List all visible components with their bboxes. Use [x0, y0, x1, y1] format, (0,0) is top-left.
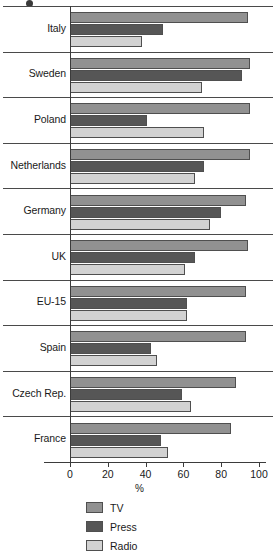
bar-radio-germany: [70, 219, 210, 230]
bar-group: EU-15: [0, 280, 279, 326]
bar-radio-eu-15: [70, 310, 187, 321]
bar-press-netherlands: [70, 161, 204, 172]
bar-radio-sweden: [70, 82, 202, 93]
bar-group: Spain: [0, 325, 279, 371]
bar-radio-france: [70, 447, 168, 458]
bar-radio-czech-rep: [70, 401, 191, 412]
bar-press-uk: [70, 252, 195, 263]
category-label: France: [0, 432, 66, 444]
x-tick: [108, 462, 109, 467]
bar-tv-czech-rep: [70, 377, 236, 388]
x-axis-line: [44, 462, 266, 463]
bar-press-poland: [70, 115, 147, 126]
bar-group: UK: [0, 234, 279, 280]
bar-press-sweden: [70, 70, 242, 81]
legend-item-radio: Radio: [86, 537, 137, 554]
bar-press-france: [70, 435, 161, 446]
x-tick-label: 40: [126, 468, 166, 480]
x-tick-label: 60: [163, 468, 203, 480]
category-label: Germany: [0, 204, 66, 216]
bar-tv-uk: [70, 240, 248, 251]
bar-press-italy: [70, 24, 163, 35]
x-tick-label: 0: [50, 468, 90, 480]
x-tick: [183, 462, 184, 467]
bar-tv-spain: [70, 331, 246, 342]
bar-tv-sweden: [70, 58, 250, 69]
legend-item-tv: TV: [86, 499, 137, 516]
bar-tv-netherlands: [70, 149, 250, 160]
legend: TV Press Radio: [86, 499, 137, 555]
category-label: Poland: [0, 113, 66, 125]
bar-group: Sweden: [0, 52, 279, 98]
legend-swatch-tv-icon: [86, 502, 103, 513]
bar-press-spain: [70, 343, 151, 354]
legend-swatch-radio-icon: [86, 540, 103, 551]
bar-radio-uk: [70, 264, 185, 275]
category-label: Sweden: [0, 67, 66, 79]
category-label: Czech Rep.: [0, 387, 66, 399]
y-axis-line: [70, 6, 71, 462]
bar-group: Netherlands: [0, 143, 279, 189]
category-label: Spain: [0, 341, 66, 353]
category-label: UK: [0, 250, 66, 262]
bar-tv-italy: [70, 12, 248, 23]
bar-radio-netherlands: [70, 173, 195, 184]
x-tick: [221, 462, 222, 467]
x-axis-title: %: [0, 483, 279, 494]
legend-label-press: Press: [110, 521, 137, 533]
bar-group: Germany: [0, 188, 279, 234]
bar-group: Czech Rep.: [0, 371, 279, 417]
bar-press-eu-15: [70, 298, 187, 309]
category-label: Netherlands: [0, 159, 66, 171]
bar-press-germany: [70, 207, 221, 218]
x-tick: [259, 462, 260, 467]
legend-label-radio: Radio: [110, 540, 137, 552]
category-label: EU-15: [0, 295, 66, 307]
legend-item-press: Press: [86, 518, 137, 535]
plot-area: ItalySwedenPolandNetherlandsGermanyUKEU-…: [0, 0, 279, 462]
bar-group: France: [0, 416, 279, 462]
bar-group: Poland: [0, 97, 279, 143]
bar-radio-poland: [70, 127, 204, 138]
bar-tv-france: [70, 423, 231, 434]
bar-radio-italy: [70, 36, 142, 47]
bar-radio-spain: [70, 355, 157, 366]
bar-group: Italy: [0, 6, 279, 52]
bar-tv-germany: [70, 195, 246, 206]
x-tick-label: 100: [239, 468, 279, 480]
legend-swatch-press-icon: [86, 521, 103, 532]
bar-press-czech-rep: [70, 389, 182, 400]
category-label: Italy: [0, 22, 66, 34]
x-tick: [146, 462, 147, 467]
bar-tv-poland: [70, 103, 250, 114]
x-tick: [70, 462, 71, 467]
x-tick-label: 20: [88, 468, 128, 480]
legend-label-tv: TV: [110, 502, 123, 514]
bar-tv-eu-15: [70, 286, 246, 297]
x-tick-label: 80: [201, 468, 241, 480]
